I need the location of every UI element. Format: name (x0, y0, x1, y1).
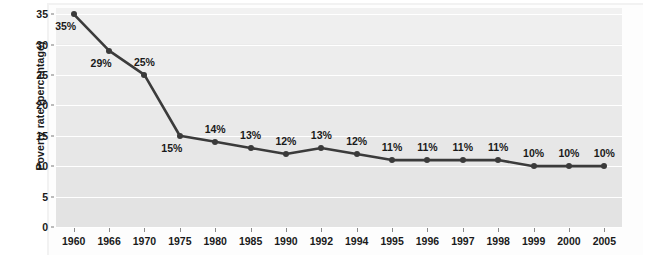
x-tick-mark (569, 228, 570, 232)
x-tick-label: 1966 (97, 235, 120, 247)
x-tick-mark (604, 228, 605, 232)
chart-figure: Poverty rate (percentage) 35%29%25%15%14… (0, 0, 645, 261)
x-tick-mark (534, 228, 535, 232)
y-tick-mark (51, 105, 54, 106)
x-tick-mark (74, 228, 75, 232)
y-tick-label: 0 (18, 221, 48, 233)
x-tick-label: 1994 (345, 235, 368, 247)
y-tick-label: 10 (18, 160, 48, 172)
x-tick-mark (427, 228, 428, 232)
y-tick-mark (51, 227, 54, 228)
x-tick-label: 2000 (557, 235, 580, 247)
x-tick-label: 1970 (133, 235, 156, 247)
x-tick-label: 1996 (416, 235, 439, 247)
x-tick-mark (357, 228, 358, 232)
x-tick-label: 1999 (522, 235, 545, 247)
x-tick-mark (215, 228, 216, 232)
x-tick-label: 1980 (204, 235, 227, 247)
y-tick-label: 35 (18, 8, 48, 20)
x-tick-mark (463, 228, 464, 232)
y-tick-label: 25 (18, 69, 48, 81)
y-tick-label: 15 (18, 130, 48, 142)
y-tick-label: 20 (18, 99, 48, 111)
x-tick-label: 1992 (310, 235, 333, 247)
y-tick-mark (51, 166, 54, 167)
x-tick-label: 1960 (62, 235, 85, 247)
plot-area: 35%29%25%15%14%13%12%13%12%11%11%11%11%1… (56, 8, 622, 227)
x-tick-mark (180, 228, 181, 232)
x-tick-mark (498, 228, 499, 232)
x-tick-label: 2005 (593, 235, 616, 247)
y-tick-label: 5 (18, 191, 48, 203)
y-tick-mark (51, 14, 54, 15)
x-tick-mark (251, 228, 252, 232)
y-tick-mark (51, 44, 54, 45)
y-tick-mark (51, 135, 54, 136)
x-tick-mark (321, 228, 322, 232)
x-tick-mark (144, 228, 145, 232)
x-tick-mark (392, 228, 393, 232)
x-tick-label: 1990 (274, 235, 297, 247)
x-tick-mark (109, 228, 110, 232)
series-line (56, 8, 622, 227)
x-tick-label: 1997 (451, 235, 474, 247)
y-tick-label: 30 (18, 39, 48, 51)
y-tick-mark (51, 74, 54, 75)
x-tick-label: 1995 (380, 235, 403, 247)
gridline (56, 227, 622, 228)
x-tick-label: 1985 (239, 235, 262, 247)
x-tick-label: 1975 (168, 235, 191, 247)
x-tick-label: 1998 (487, 235, 510, 247)
x-tick-mark (286, 228, 287, 232)
y-tick-mark (51, 196, 54, 197)
